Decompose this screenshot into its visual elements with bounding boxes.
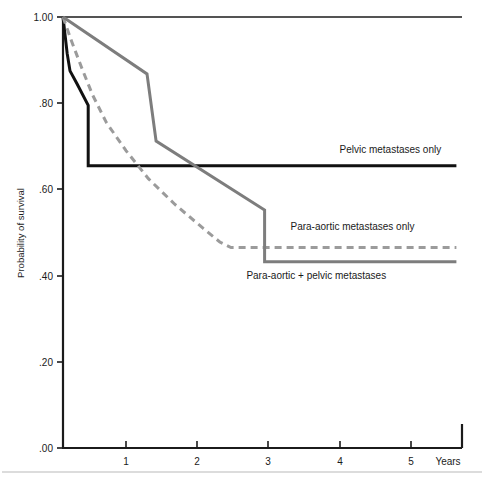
y-tick-label-0-80: .80 [39,98,53,109]
axis-frame [63,17,462,448]
y-tick-label-0-00: .00 [39,443,53,454]
x-tick-label-4: 4 [337,456,343,467]
y-tick-label-0-60: .60 [39,184,53,195]
x-tick-label-2: 2 [194,456,200,467]
series-label-1: Para-aortic metastases only [291,221,415,232]
x-tick-label-1: 1 [123,456,129,467]
y-tick-label-0-20: .20 [39,357,53,368]
series-curve-1 [63,17,456,248]
y-axis-tick-labels: 1.00 .80 .60 .40 .20 .00 [34,12,54,454]
axis-spines [63,17,462,448]
y-tick-label-1-00: 1.00 [34,12,54,23]
survival-chart: 1.00 .80 .60 .40 .20 .00 Probability of … [0,0,484,478]
x-tick-label-5: 5 [408,456,414,467]
series-label-0: Pelvic metastases only [340,144,442,155]
x-axis-title: Years [435,456,460,467]
x-tick-label-3: 3 [265,456,271,467]
x-axis-tick-labels: 1 2 3 4 5 [123,456,414,467]
series-label-2: Para-aortic + pelvic metastases [246,270,386,281]
y-tick-label-0-40: .40 [39,271,53,282]
figure-container: 1.00 .80 .60 .40 .20 .00 Probability of … [0,0,484,478]
y-axis-title: Probability of survival [15,188,26,278]
